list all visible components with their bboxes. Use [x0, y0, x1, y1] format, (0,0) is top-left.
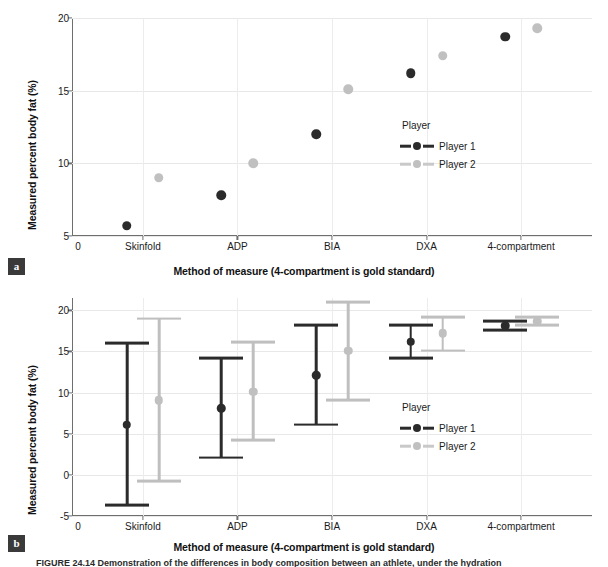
figure-caption: FIGURE 24.14 Demonstration of the differ…	[36, 558, 608, 567]
legend-item-player-1[interactable]: Player 1	[400, 137, 476, 155]
gridline-vertical	[237, 298, 238, 516]
legend-label-player-1: Player 1	[439, 141, 476, 152]
x-axis-tick-mark	[142, 516, 143, 520]
x-axis-tick-mark	[142, 236, 143, 240]
x-axis-tick-mark	[237, 516, 238, 520]
panel-b-x-axis-title: Method of measure (4-compartment is gold…	[0, 541, 608, 553]
panel-b-plot-area: -5051015200SkinfoldADPBIADXA4-compartmen…	[72, 298, 592, 516]
data-point[interactable]	[533, 317, 542, 326]
x-axis-tick-mark	[331, 236, 332, 240]
y-axis-tick-label: 15	[58, 85, 69, 96]
legend-title: Player	[400, 402, 476, 413]
legend-item-player-2[interactable]: Player 2	[400, 155, 476, 173]
legend-marker-player-2	[400, 440, 434, 452]
x-axis-tick-label: Skinfold	[125, 521, 161, 532]
x-axis-tick-label: 0	[75, 521, 81, 532]
error-bar-cap-upper	[326, 301, 370, 304]
error-bar-cap-upper	[389, 324, 433, 327]
panel-b-legend: Player Player 1 Player 2	[400, 402, 476, 455]
panel-a-y-axis-title: Measured percent body fat (%)	[26, 80, 38, 230]
x-axis-tick-mark	[426, 236, 427, 240]
data-point[interactable]	[155, 396, 164, 405]
error-bar-cap-lower	[231, 439, 275, 442]
data-point[interactable]	[249, 159, 259, 169]
data-point[interactable]	[438, 329, 447, 338]
data-point[interactable]	[438, 51, 448, 61]
data-point[interactable]	[343, 84, 353, 94]
y-axis-tick-label: 20	[58, 305, 69, 316]
x-axis-tick-label: ADP	[227, 241, 248, 252]
y-axis-tick-label: 20	[58, 13, 69, 24]
legend-marker-player-1	[400, 140, 434, 152]
y-axis-tick-label: 15	[58, 346, 69, 357]
x-axis-tick-label: DXA	[416, 241, 437, 252]
gridline-vertical	[143, 18, 144, 236]
data-point[interactable]	[532, 23, 542, 33]
legend-label-player-1: Player 1	[439, 423, 476, 434]
data-point[interactable]	[406, 337, 415, 346]
x-axis-tick-mark	[237, 236, 238, 240]
y-axis-tick-label: -5	[60, 511, 69, 522]
legend-item-player-1[interactable]: Player 1	[400, 419, 476, 437]
x-axis-tick-mark	[520, 236, 521, 240]
gridline-vertical	[332, 18, 333, 236]
error-bar-cap-lower	[326, 399, 370, 402]
y-axis-tick-label: 10	[58, 158, 69, 169]
gridline-vertical	[143, 298, 144, 516]
panel-a-plot-area: 51015200SkinfoldADPBIADXA4-compartment	[72, 18, 592, 236]
data-point[interactable]	[123, 420, 132, 429]
panel-b-y-axis-title: Measured percent body fat (%)	[26, 365, 38, 515]
legend-label-player-2: Player 2	[439, 159, 476, 170]
data-point[interactable]	[501, 322, 510, 331]
x-axis-tick-mark	[426, 516, 427, 520]
error-bar-cap-upper	[137, 317, 181, 320]
gridline-vertical	[237, 18, 238, 236]
error-bar-cap-lower	[105, 504, 149, 507]
gridline-vertical	[332, 298, 333, 516]
y-axis-tick-label: 0	[63, 469, 69, 480]
error-bar-cap-lower	[199, 456, 243, 459]
x-axis-tick-mark	[520, 516, 521, 520]
data-point[interactable]	[154, 173, 164, 183]
data-point[interactable]	[500, 32, 510, 42]
data-point[interactable]	[217, 404, 226, 413]
y-axis-tick-label: 10	[58, 387, 69, 398]
data-point[interactable]	[406, 68, 416, 78]
error-bar-cap-upper	[231, 341, 275, 344]
legend-item-player-2[interactable]: Player 2	[400, 437, 476, 455]
error-bar-cap-lower	[421, 349, 465, 352]
error-bar-cap-lower	[137, 480, 181, 483]
error-bar-cap-upper	[421, 316, 465, 319]
error-bar-cap-upper	[199, 357, 243, 360]
legend-label-player-2: Player 2	[439, 441, 476, 452]
data-point[interactable]	[217, 191, 227, 201]
error-bar-cap-lower	[294, 423, 338, 426]
panel-a: a Measured percent body fat (%) Method o…	[0, 0, 608, 290]
data-point[interactable]	[249, 388, 258, 397]
x-axis-tick-label: ADP	[227, 521, 248, 532]
panel-a-y-axis-line	[72, 18, 73, 236]
legend-marker-player-2	[400, 158, 434, 170]
x-axis-tick-label: BIA	[324, 521, 340, 532]
panel-a-legend: Player Player 1 Player 2	[400, 120, 476, 173]
x-axis-tick-label: 4-compartment	[487, 241, 554, 252]
y-axis-tick-label: 5	[63, 231, 69, 242]
y-axis-tick-label: 5	[63, 428, 69, 439]
x-axis-tick-label: DXA	[416, 521, 437, 532]
data-point[interactable]	[344, 346, 353, 355]
error-bar-cap-upper	[294, 324, 338, 327]
legend-marker-player-1	[400, 422, 434, 434]
data-point[interactable]	[122, 221, 132, 231]
gridline-vertical	[521, 18, 522, 236]
x-axis-tick-mark	[331, 516, 332, 520]
data-point[interactable]	[312, 371, 321, 380]
panel-b: b Measured percent body fat (%) Method o…	[0, 290, 608, 564]
panel-b-y-axis-line	[72, 298, 73, 516]
error-bar-cap-lower	[389, 357, 433, 360]
x-axis-tick-label: 0	[75, 241, 81, 252]
x-axis-tick-label: Skinfold	[125, 241, 161, 252]
x-axis-tick-label: 4-compartment	[487, 521, 554, 532]
legend-title: Player	[400, 120, 476, 131]
data-point[interactable]	[311, 130, 321, 140]
